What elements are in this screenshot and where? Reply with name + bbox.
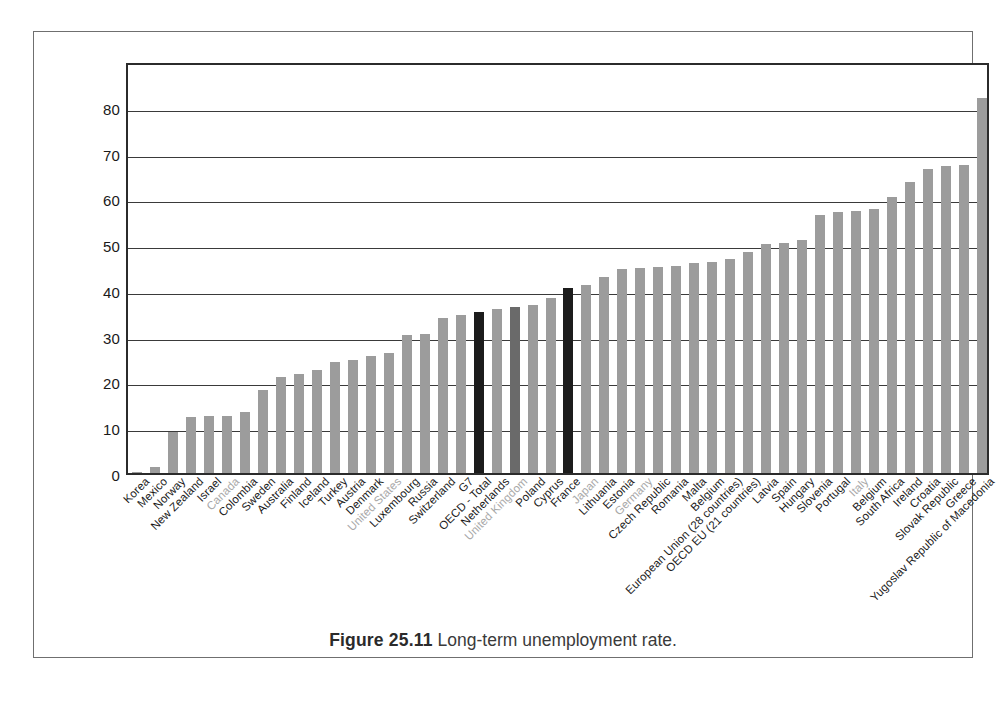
bar [492, 309, 502, 473]
bar [402, 335, 412, 473]
bar [132, 472, 142, 473]
y-tick-label: 80 [103, 100, 120, 117]
y-tick-label: 40 [103, 283, 120, 300]
bar [689, 263, 699, 473]
bar [635, 268, 645, 473]
bar [150, 467, 160, 473]
bar [294, 374, 304, 473]
bar [276, 377, 286, 473]
bar [204, 416, 214, 473]
y-tick-label: 30 [103, 329, 120, 346]
bar [617, 269, 627, 473]
bar [671, 266, 681, 473]
bar [761, 244, 771, 473]
bar [977, 98, 987, 473]
bar [348, 360, 358, 473]
figure-caption: Figure 25.11 Long-term unemployment rate… [34, 630, 972, 651]
bar [833, 212, 843, 473]
x-axis-category-labels: KoreaMexicoNorwayNew ZealandIsraelCanada… [126, 475, 989, 655]
bar [905, 182, 915, 473]
bar [546, 298, 556, 473]
bar [366, 356, 376, 473]
bar [384, 353, 394, 473]
chart-plot-wrapper: 01020304050607080 [86, 63, 989, 475]
bar [779, 243, 789, 473]
bar [456, 315, 466, 473]
y-axis: 01020304050607080 [86, 63, 120, 475]
y-tick-label: 50 [103, 238, 120, 255]
bar [563, 288, 573, 473]
bar [725, 259, 735, 473]
y-tick-label: 0 [111, 467, 120, 484]
bar [312, 370, 322, 473]
bar [653, 267, 663, 473]
bars-layer [128, 65, 987, 473]
bar [510, 307, 520, 473]
bar [941, 166, 951, 473]
y-tick-label: 20 [103, 375, 120, 392]
bar [797, 240, 807, 473]
y-tick-label: 60 [103, 192, 120, 209]
bar [330, 362, 340, 473]
bar [474, 312, 484, 473]
figure-caption-label: Figure 25.11 [329, 630, 433, 650]
bar [438, 318, 448, 473]
bar [581, 285, 591, 473]
bar [851, 211, 861, 473]
bar [222, 416, 232, 473]
plot-area [126, 63, 989, 475]
bar [240, 412, 250, 473]
bar [707, 262, 717, 473]
bar [528, 305, 538, 473]
bar [599, 277, 609, 473]
y-tick-label: 10 [103, 421, 120, 438]
bar [869, 209, 879, 473]
bar [258, 390, 268, 473]
bar [743, 252, 753, 473]
figure-frame: 01020304050607080 KoreaMexicoNorwayNew Z… [33, 31, 973, 658]
bar [420, 334, 430, 473]
y-tick-label: 70 [103, 146, 120, 163]
bar [186, 417, 196, 473]
bar [815, 215, 825, 473]
bar [887, 197, 897, 473]
bar [923, 169, 933, 473]
figure-caption-text: Long-term unemployment rate. [438, 630, 677, 650]
bar [168, 432, 178, 473]
bar [959, 165, 969, 473]
